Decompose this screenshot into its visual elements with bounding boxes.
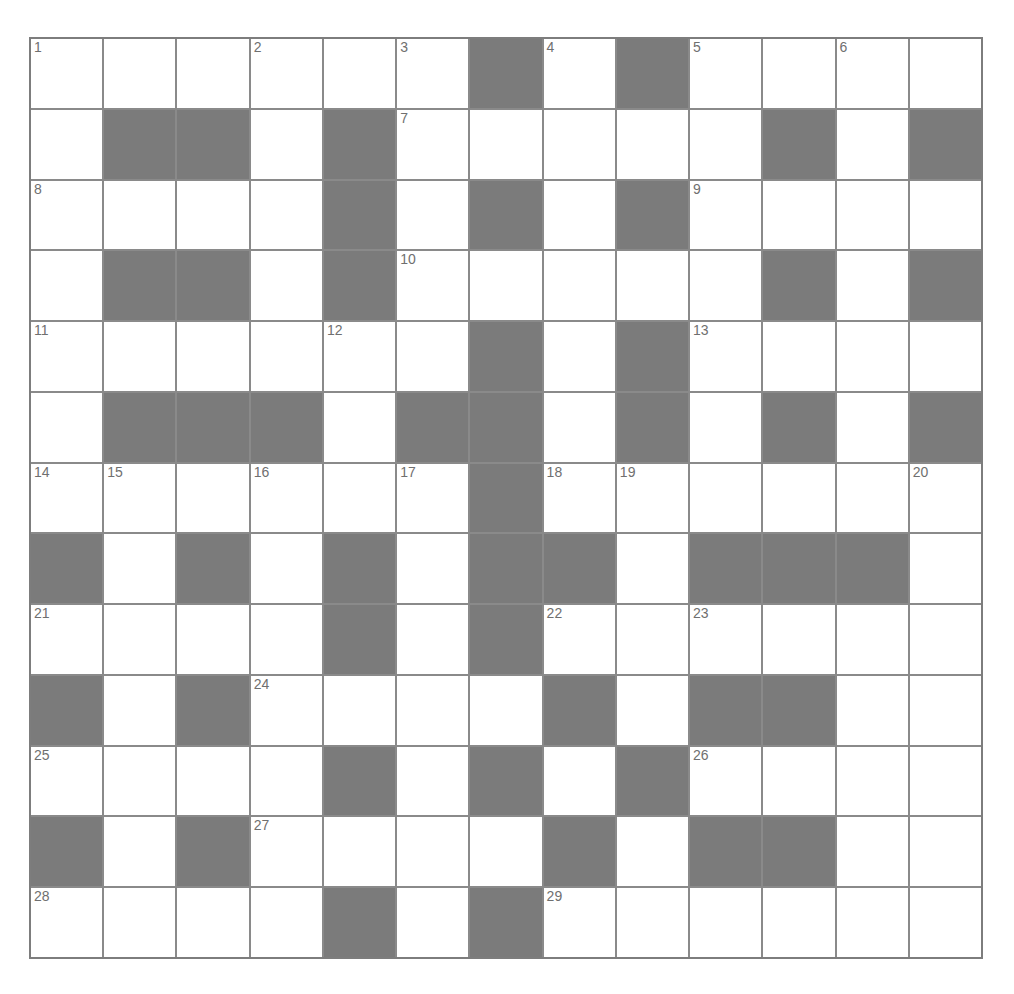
letter-input[interactable] [910,888,981,957]
letter-cell[interactable] [617,676,688,745]
letter-input[interactable] [251,110,322,179]
letter-input[interactable] [470,676,541,745]
letter-cell[interactable] [837,605,908,674]
letter-cell[interactable] [397,817,468,886]
letter-cell[interactable] [544,251,615,320]
letter-input[interactable] [324,817,395,886]
letter-input[interactable] [251,251,322,320]
letter-input[interactable] [837,110,908,179]
letter-input[interactable] [104,747,175,816]
letter-input[interactable] [690,747,761,816]
letter-cell[interactable] [470,676,541,745]
letter-input[interactable] [251,747,322,816]
letter-cell[interactable]: 13 [690,322,761,391]
letter-cell[interactable] [251,110,322,179]
letter-input[interactable] [544,110,615,179]
letter-input[interactable] [324,393,395,462]
letter-cell[interactable]: 16 [251,464,322,533]
letter-input[interactable] [690,393,761,462]
letter-input[interactable] [690,888,761,957]
letter-cell[interactable] [690,110,761,179]
letter-cell[interactable] [763,181,834,250]
letter-cell[interactable] [397,534,468,603]
letter-input[interactable] [104,605,175,674]
letter-cell[interactable] [31,251,102,320]
letter-input[interactable] [763,605,834,674]
letter-input[interactable] [31,393,102,462]
letter-cell[interactable] [324,39,395,108]
letter-input[interactable] [544,747,615,816]
letter-input[interactable] [544,888,615,957]
letter-cell[interactable] [177,747,248,816]
letter-cell[interactable] [837,181,908,250]
letter-input[interactable] [31,464,102,533]
letter-input[interactable] [544,464,615,533]
letter-cell[interactable] [31,110,102,179]
letter-input[interactable] [617,464,688,533]
letter-cell[interactable] [837,110,908,179]
letter-input[interactable] [617,605,688,674]
letter-cell[interactable]: 5 [690,39,761,108]
letter-input[interactable] [397,888,468,957]
letter-input[interactable] [251,817,322,886]
letter-cell[interactable] [763,39,834,108]
letter-input[interactable] [837,251,908,320]
letter-input[interactable] [324,464,395,533]
letter-cell[interactable] [617,888,688,957]
letter-input[interactable] [251,322,322,391]
letter-input[interactable] [397,251,468,320]
letter-input[interactable] [690,322,761,391]
letter-input[interactable] [397,747,468,816]
letter-cell[interactable]: 25 [31,747,102,816]
letter-input[interactable] [837,817,908,886]
letter-input[interactable] [837,322,908,391]
letter-cell[interactable]: 1 [31,39,102,108]
letter-cell[interactable] [837,322,908,391]
letter-cell[interactable] [397,181,468,250]
letter-cell[interactable] [837,464,908,533]
letter-cell[interactable]: 24 [251,676,322,745]
letter-input[interactable] [763,322,834,391]
letter-input[interactable] [544,322,615,391]
letter-input[interactable] [104,181,175,250]
letter-cell[interactable]: 3 [397,39,468,108]
letter-input[interactable] [104,464,175,533]
letter-cell[interactable]: 7 [397,110,468,179]
letter-cell[interactable] [251,322,322,391]
letter-input[interactable] [324,39,395,108]
letter-input[interactable] [397,817,468,886]
letter-cell[interactable] [104,605,175,674]
letter-input[interactable] [763,464,834,533]
letter-cell[interactable] [544,393,615,462]
letter-cell[interactable] [910,39,981,108]
letter-input[interactable] [104,888,175,957]
letter-cell[interactable] [837,747,908,816]
letter-input[interactable] [763,39,834,108]
letter-input[interactable] [837,39,908,108]
letter-input[interactable] [251,39,322,108]
letter-cell[interactable]: 2 [251,39,322,108]
letter-cell[interactable] [251,605,322,674]
letter-input[interactable] [544,393,615,462]
letter-cell[interactable] [397,605,468,674]
letter-cell[interactable] [104,817,175,886]
letter-cell[interactable] [763,605,834,674]
letter-cell[interactable] [690,888,761,957]
letter-input[interactable] [910,676,981,745]
letter-cell[interactable] [324,464,395,533]
letter-input[interactable] [690,110,761,179]
letter-cell[interactable]: 18 [544,464,615,533]
letter-cell[interactable] [324,393,395,462]
letter-input[interactable] [617,110,688,179]
letter-input[interactable] [177,605,248,674]
letter-input[interactable] [104,322,175,391]
letter-input[interactable] [177,181,248,250]
letter-cell[interactable] [910,888,981,957]
letter-cell[interactable] [763,747,834,816]
letter-cell[interactable] [31,393,102,462]
letter-cell[interactable] [104,181,175,250]
letter-input[interactable] [837,464,908,533]
letter-input[interactable] [690,464,761,533]
letter-input[interactable] [470,251,541,320]
letter-input[interactable] [251,181,322,250]
